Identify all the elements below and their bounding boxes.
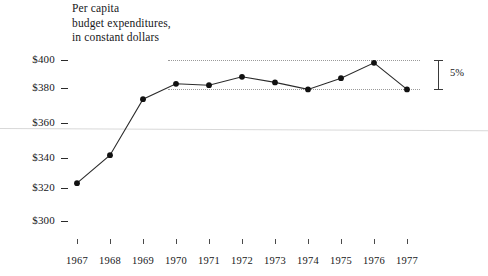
data-point-1977 bbox=[404, 87, 410, 93]
chart-figure: Per capita budget expenditures, in const… bbox=[0, 0, 488, 276]
data-point-1976 bbox=[371, 60, 377, 66]
data-point-1971 bbox=[206, 82, 212, 88]
data-point-1974 bbox=[305, 87, 311, 93]
data-point-1967 bbox=[74, 180, 80, 186]
data-point-1969 bbox=[140, 96, 146, 102]
data-line-series bbox=[77, 63, 407, 183]
data-point-1975 bbox=[338, 75, 344, 81]
data-series-plot bbox=[0, 0, 488, 276]
data-point-1973 bbox=[272, 80, 278, 86]
data-point-1970 bbox=[173, 81, 179, 87]
data-point-markers bbox=[74, 60, 410, 186]
data-point-1972 bbox=[239, 74, 245, 80]
data-point-1968 bbox=[107, 152, 113, 158]
